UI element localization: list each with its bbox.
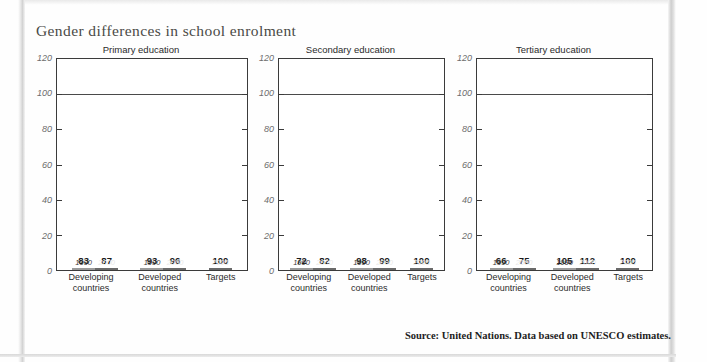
x-label-line2: countries	[286, 283, 331, 294]
x-axis-group-label: Targets	[407, 272, 437, 302]
x-label-line2: countries	[486, 283, 531, 294]
bar[interactable]: 1122000	[576, 268, 599, 270]
x-label-line1: Developing	[68, 272, 113, 283]
y-tick-label: 100	[457, 88, 472, 98]
y-tick-label: 60	[42, 160, 52, 170]
axis-tick-mark	[242, 94, 247, 95]
axis-tick-mark	[279, 200, 284, 201]
axis-tick-mark	[57, 165, 62, 166]
axis-tick-mark	[477, 94, 482, 95]
bar[interactable]: 752000	[513, 268, 536, 270]
x-axis-group-label: Developingcountries	[286, 272, 331, 302]
bar[interactable]: 1051990	[553, 268, 576, 270]
y-axis-primary: 120100806040200	[26, 58, 56, 271]
plot-wrapper-tertiary: 120100806040200 661990752000105199011220…	[446, 58, 661, 271]
page-edge-left	[18, 0, 25, 362]
bar-group: 1002005	[616, 268, 639, 270]
axis-tick-mark	[57, 94, 62, 95]
bar[interactable]: 822000	[313, 268, 336, 270]
x-axis-group-label: Targets	[614, 272, 644, 302]
y-tick-label: 60	[462, 160, 472, 170]
bar-year-label: 2000	[314, 258, 335, 267]
page-bottom-rule	[0, 354, 676, 357]
bar-year-label: 1990	[141, 258, 162, 267]
y-axis-tertiary: 120100806040200	[446, 58, 476, 271]
axis-tick-mark	[477, 165, 482, 166]
bar[interactable]: 1002005	[616, 268, 639, 270]
bar-year-label: 1990	[291, 258, 312, 267]
y-tick-label: 120	[37, 53, 52, 63]
x-label-line2: countries	[138, 283, 181, 294]
y-tick-label: 60	[264, 160, 274, 170]
axis-tick-mark	[647, 165, 652, 166]
bar[interactable]: 1002005	[209, 268, 232, 270]
y-axis-secondary: 120100806040200	[248, 58, 278, 271]
bar[interactable]: 721990	[290, 268, 313, 270]
bar[interactable]: 981990	[350, 268, 373, 270]
bar-group: 831990872000	[72, 268, 118, 270]
axis-tick-mark	[279, 94, 284, 95]
axis-tick-mark	[439, 235, 444, 236]
y-tick-label: 120	[259, 53, 274, 63]
y-tick-label: 40	[462, 195, 472, 205]
x-label-line1: Developed	[551, 272, 594, 283]
y-tick-label: 40	[264, 195, 274, 205]
bar[interactable]: 1002005	[410, 268, 433, 270]
y-tick-label: 80	[462, 124, 472, 134]
bar-year-label: 1990	[554, 258, 575, 267]
bar-year-label: 1990	[491, 258, 512, 267]
gridline-100	[279, 94, 444, 95]
bar-group: 10519901122000	[553, 268, 599, 270]
gridline-100	[477, 94, 652, 95]
bar[interactable]: 872000	[95, 268, 118, 270]
bar-group: 931990962000	[140, 268, 186, 270]
y-tick-label: 20	[42, 231, 52, 241]
y-tick-label: 0	[269, 266, 274, 276]
bar-year-label: 2000	[96, 258, 117, 267]
axis-tick-mark	[439, 165, 444, 166]
x-label-line2: countries	[551, 283, 594, 294]
plot-wrapper-secondary: 120100806040200 721990822000981990992000…	[248, 58, 453, 271]
y-tick-label: 80	[264, 124, 274, 134]
gridline-100	[57, 94, 247, 95]
x-labels-secondary: DevelopingcountriesDevelopedcountriesTar…	[278, 272, 445, 302]
bar[interactable]: 962000	[163, 268, 186, 270]
y-tick-label: 40	[42, 195, 52, 205]
plot-area-tertiary: 661990752000105199011220001002005	[476, 58, 653, 271]
bars-secondary: 7219908220009819909920001002005	[279, 59, 444, 270]
bar[interactable]: 931990	[140, 268, 163, 270]
x-label-line2: countries	[68, 283, 113, 294]
source-note: Source: United Nations. Data based on UN…	[405, 330, 671, 341]
axis-tick-mark	[477, 235, 482, 236]
axis-tick-mark	[647, 94, 652, 95]
axis-tick-mark	[279, 129, 284, 130]
chart-title-secondary: Secondary education	[248, 44, 453, 55]
bar-year-label: 2005	[617, 258, 638, 267]
axis-tick-mark	[57, 235, 62, 236]
x-axis-group-label: Targets	[206, 272, 236, 302]
x-label-line1: Targets	[407, 272, 437, 283]
page-title: Gender differences in school enrolment	[36, 22, 296, 40]
axis-tick-mark	[647, 129, 652, 130]
chart-title-primary: Primary education	[26, 44, 256, 55]
bar-year-label: 2005	[210, 258, 231, 267]
y-tick-label: 120	[457, 53, 472, 63]
axis-tick-mark	[57, 129, 62, 130]
bar-year-label: 1990	[351, 258, 372, 267]
bar-group: 721990822000	[290, 268, 336, 270]
chart-panel-primary: Primary education 120100806040200 831990…	[26, 44, 256, 294]
bar[interactable]: 661990	[490, 268, 513, 270]
y-tick-label: 20	[264, 231, 274, 241]
bar[interactable]: 831990	[72, 268, 95, 270]
bar-group: 1002005	[209, 268, 232, 270]
axis-tick-mark	[477, 129, 482, 130]
bar[interactable]: 992000	[373, 268, 396, 270]
charts-container: Primary education 120100806040200 831990…	[26, 44, 666, 294]
axis-tick-mark	[647, 235, 652, 236]
y-tick-label: 20	[462, 231, 472, 241]
page-edge-top	[22, 0, 672, 5]
y-tick-label: 0	[467, 266, 472, 276]
bar-year-label: 2005	[411, 258, 432, 267]
plot-wrapper-primary: 120100806040200 831990872000931990962000…	[26, 58, 256, 271]
axis-tick-mark	[57, 200, 62, 201]
